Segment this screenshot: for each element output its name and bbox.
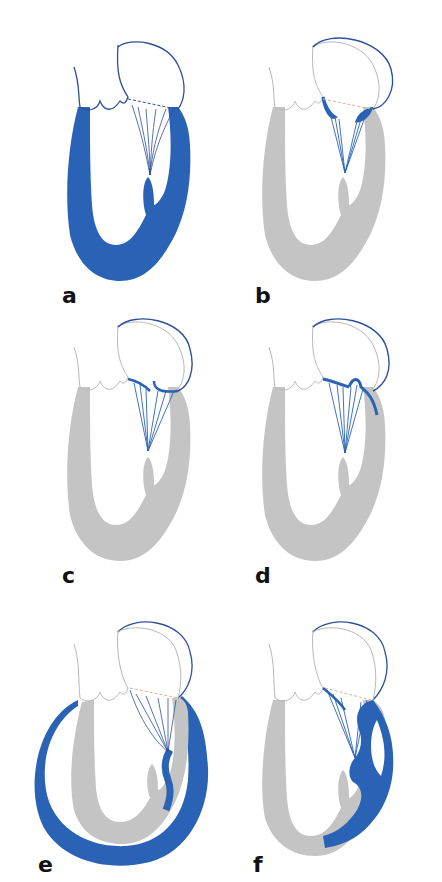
panel-e: e	[50, 600, 250, 882]
panel-label: b	[255, 283, 271, 308]
panel-a: a	[50, 45, 250, 330]
panel-c: c	[50, 325, 250, 610]
panel-label: e	[38, 852, 53, 877]
heart-diagram-b	[245, 45, 442, 330]
panel-label: d	[255, 563, 271, 588]
heart-diagram-c	[50, 325, 250, 610]
heart-diagram-a	[50, 45, 250, 330]
panel-f: f	[245, 600, 442, 882]
heart-diagram-f	[245, 600, 442, 882]
panel-label: f	[253, 852, 263, 877]
heart-diagram-d	[245, 325, 442, 610]
lv-wall-highlight	[67, 107, 190, 281]
heart-diagram-e	[50, 600, 250, 882]
panel-label: a	[62, 283, 77, 308]
panel-b: b	[245, 45, 442, 330]
panel-d: d	[245, 325, 442, 610]
panel-label: c	[62, 563, 75, 588]
atrium-highlight	[313, 38, 393, 109]
